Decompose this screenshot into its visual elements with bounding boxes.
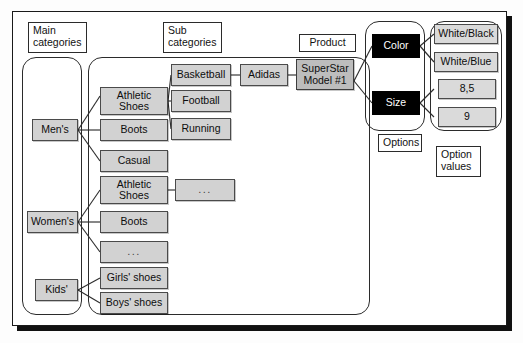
- frame-shadow-bottom: [17, 326, 512, 331]
- diagram-canvas: Main categories Sub categories Product O…: [0, 0, 523, 343]
- caption-options: Options: [378, 134, 422, 152]
- node-sub-sub-category-womens-athletic-more[interactable]: ...: [175, 179, 235, 201]
- main-categories-group: [22, 57, 82, 315]
- node-sub-category-kids-boys[interactable]: Boys' shoes: [100, 292, 168, 314]
- caption-main-categories: Main categories: [28, 22, 87, 53]
- node-sub-category-womens-boots[interactable]: Boots: [100, 211, 168, 233]
- node-main-category-kids[interactable]: Kids': [35, 279, 78, 301]
- node-product-superstar[interactable]: SuperStar Model #1: [296, 59, 354, 90]
- node-option-size[interactable]: Size: [372, 91, 420, 115]
- node-option-value-size-9[interactable]: 9: [438, 107, 496, 127]
- node-sub-category-mens-boots[interactable]: Boots: [100, 119, 168, 141]
- caption-option-values: Option values: [436, 146, 481, 177]
- node-sub-category-kids-girls[interactable]: Girls' shoes: [100, 267, 168, 289]
- node-option-value-white-blue[interactable]: White/Blue: [434, 52, 498, 72]
- node-sub-category-mens-casual[interactable]: Casual: [100, 150, 168, 172]
- node-sub-category-womens-more[interactable]: ...: [100, 241, 168, 263]
- node-sub-sub-category-running[interactable]: Running: [171, 118, 231, 140]
- node-main-category-womens[interactable]: Women's: [27, 211, 78, 233]
- node-sub-sub-category-football[interactable]: Football: [171, 90, 231, 112]
- node-option-value-white-black[interactable]: White/Black: [434, 24, 498, 44]
- caption-sub-categories: Sub categories: [163, 22, 222, 53]
- frame-shadow-right: [507, 16, 512, 331]
- caption-product: Product: [299, 34, 356, 52]
- node-brand-adidas[interactable]: Adidas: [240, 64, 288, 86]
- node-sub-sub-category-basketball[interactable]: Basketball: [171, 64, 231, 86]
- node-main-category-mens[interactable]: Men's: [32, 119, 78, 141]
- node-option-color[interactable]: Color: [372, 34, 420, 58]
- node-option-value-size-85[interactable]: 8,5: [438, 79, 496, 99]
- node-sub-category-womens-athletic[interactable]: Athletic Shoes: [100, 176, 168, 204]
- node-sub-category-mens-athletic[interactable]: Athletic Shoes: [100, 87, 168, 115]
